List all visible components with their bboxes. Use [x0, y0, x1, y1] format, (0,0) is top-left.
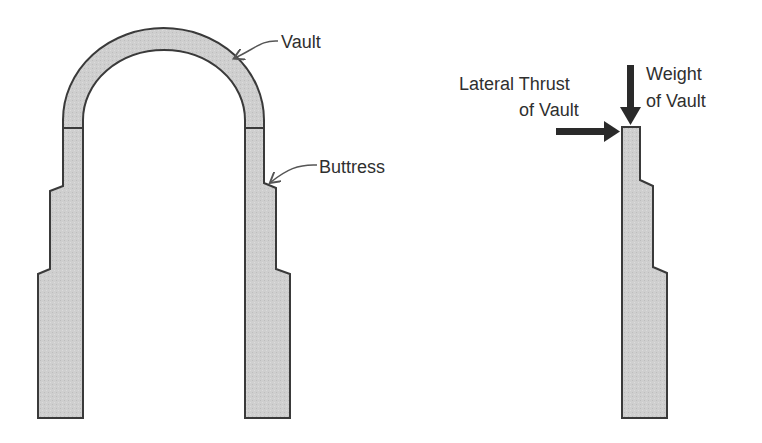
vault-arch — [63, 28, 264, 128]
weight-label-line1: Weight — [646, 64, 702, 84]
left-buttress — [38, 128, 83, 418]
buttress-label: Buttress — [319, 157, 385, 177]
lateral-thrust-label-line1: Lateral Thrust — [459, 74, 570, 94]
weight-arrow — [620, 65, 641, 125]
right-buttress — [245, 128, 290, 418]
lateral-thrust-label-line2: of Vault — [519, 100, 579, 120]
vault-leader-line — [235, 41, 278, 58]
weight-label-line2: of Vault — [646, 91, 706, 111]
isolated-buttress — [622, 127, 667, 418]
vault-buttress-diagram: Vault Buttress Lateral Thrust of Vault W… — [0, 0, 762, 443]
vault-label: Vault — [281, 32, 321, 52]
lateral-thrust-arrow — [556, 121, 620, 142]
buttress-leader-line — [271, 165, 317, 182]
